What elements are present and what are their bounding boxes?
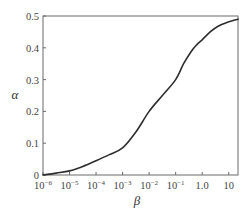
- y-tick-label: 0.2: [26, 106, 39, 117]
- x-axis-label: β: [133, 193, 141, 208]
- y-tick-label: 0.1: [26, 138, 39, 149]
- y-axis-label: α: [12, 87, 20, 102]
- y-tick-label: 0.4: [26, 43, 40, 54]
- x-tick-label: 10−5: [61, 179, 79, 191]
- data-points: [43, 19, 238, 175]
- x-tick-label: 10−3: [114, 179, 132, 191]
- y-tick-label: 0: [34, 170, 39, 181]
- x-tick-label: 10: [223, 180, 234, 191]
- x-tick-label: 10−2: [140, 179, 158, 191]
- y-tick-label: 0.5: [26, 11, 39, 22]
- y-tick-label: 0.3: [26, 75, 39, 86]
- plot-frame: [43, 16, 238, 175]
- chart: 10−610−510−410−310−210−11.010 00.10.20.3…: [0, 0, 248, 217]
- x-tick-label: 10−4: [87, 179, 105, 191]
- x-tick-label: 1.0: [196, 180, 209, 191]
- x-tick-label: 10−1: [167, 179, 185, 191]
- series-line-alpha-vs-beta: [43, 19, 238, 175]
